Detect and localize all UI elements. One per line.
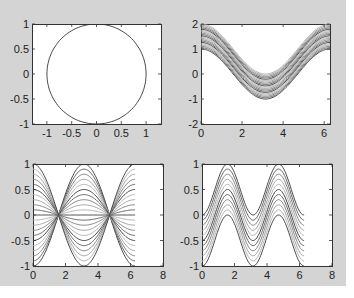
y-tick-label: 0	[23, 68, 29, 80]
x-tick-label: 2	[239, 127, 245, 139]
y-tick-label: 2	[192, 18, 198, 30]
x-tick-label: 0	[198, 127, 204, 139]
y-tick-label: -1	[20, 260, 30, 272]
x-tick-label: 0	[93, 127, 99, 139]
subplot-top-right: 0246-2-1012	[188, 18, 330, 139]
axes-frame	[34, 165, 164, 267]
y-tick-label: -2	[188, 118, 198, 130]
x-tick-label: 8	[329, 269, 335, 281]
x-tick-label: -0.5	[62, 127, 81, 139]
y-tick-label: -0.5	[11, 235, 30, 247]
y-tick-label: 1	[193, 158, 199, 170]
y-tick-label: 1	[192, 43, 198, 55]
x-tick-label: 0.5	[114, 127, 129, 139]
x-tick-label: 2	[62, 269, 68, 281]
subplot-grid: -1-0.500.51-1-0.500.510246-2-101202468-1…	[0, 0, 354, 298]
x-tick-label: 0	[199, 269, 205, 281]
x-tick-label: 6	[321, 127, 327, 139]
y-tick-label: 1	[23, 18, 29, 30]
x-tick-label: 6	[296, 269, 302, 281]
x-tick-label: 6	[127, 269, 133, 281]
y-tick-label: 0	[192, 68, 198, 80]
x-tick-label: 1	[143, 127, 149, 139]
x-tick-label: 0	[30, 269, 36, 281]
y-tick-label: -1	[189, 260, 199, 272]
y-tick-label: 0.5	[184, 184, 199, 196]
subplot-top-left: -1-0.500.51-1-0.500.51	[10, 18, 161, 139]
x-tick-label: 2	[231, 269, 237, 281]
figure-window: -1-0.500.51-1-0.500.510246-2-101202468-1…	[0, 0, 346, 286]
x-tick-label: -1	[42, 127, 52, 139]
y-tick-label: -0.5	[180, 235, 199, 247]
x-tick-label: 4	[95, 269, 101, 281]
x-tick-label: 4	[280, 127, 286, 139]
y-tick-label: 0.5	[14, 43, 29, 55]
y-tick-label: -0.5	[10, 93, 29, 105]
x-tick-label: 8	[160, 269, 166, 281]
y-tick-label: 0	[193, 209, 199, 221]
y-tick-label: 1	[24, 158, 30, 170]
subplot-bottom-left: 02468-1-0.500.51	[11, 158, 166, 281]
y-tick-label: 0	[24, 209, 30, 221]
y-tick-label: -1	[188, 93, 198, 105]
y-tick-label: -1	[19, 118, 29, 130]
y-tick-label: 0.5	[15, 184, 30, 196]
axes-frame	[33, 25, 162, 125]
subplot-bottom-right: 02468-1-0.500.51	[180, 158, 335, 281]
x-tick-label: 4	[264, 269, 270, 281]
